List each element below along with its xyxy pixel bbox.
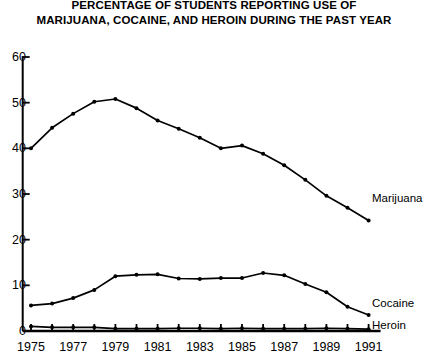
series-point-cocaine — [177, 276, 181, 280]
series-point-cocaine — [156, 272, 160, 276]
series-point-cocaine — [240, 276, 244, 280]
x-tick-label-1985: 1985 — [222, 341, 262, 354]
series-point-marijuana — [156, 118, 160, 122]
series-label-heroin: Heroin — [372, 320, 406, 332]
x-tick-label-1979: 1979 — [95, 341, 135, 354]
series-point-marijuana — [219, 146, 223, 150]
series-point-heroin — [135, 327, 139, 331]
series-point-marijuana — [198, 136, 202, 140]
series-point-cocaine — [92, 288, 96, 292]
series-point-marijuana — [324, 194, 328, 198]
series-point-heroin — [324, 326, 328, 330]
series-point-heroin — [177, 326, 181, 330]
x-tick-label-1975: 1975 — [11, 341, 51, 354]
chart-canvas — [0, 0, 428, 355]
series-point-cocaine — [29, 303, 33, 307]
x-tick-label-1983: 1983 — [180, 341, 220, 354]
series-point-heroin — [303, 327, 307, 331]
x-tick-label-1987: 1987 — [264, 341, 304, 354]
series-point-cocaine — [324, 290, 328, 294]
series-point-cocaine — [71, 296, 75, 300]
series-point-marijuana — [135, 106, 139, 110]
series-point-heroin — [156, 327, 160, 331]
series-point-marijuana — [92, 100, 96, 104]
series-point-heroin — [346, 327, 350, 331]
series-line-marijuana — [31, 99, 369, 220]
series-point-cocaine — [261, 271, 265, 275]
y-tick-label-10: 10 — [0, 279, 26, 292]
series-point-cocaine — [135, 273, 139, 277]
series-point-heroin — [113, 327, 117, 331]
series-point-marijuana — [303, 178, 307, 182]
series-point-heroin — [240, 326, 244, 330]
x-tick-label-1977: 1977 — [53, 341, 93, 354]
series-point-marijuana — [367, 218, 371, 222]
series-point-cocaine — [282, 273, 286, 277]
series-point-heroin — [367, 327, 371, 331]
series-point-cocaine — [113, 274, 117, 278]
series-label-cocaine: Cocaine — [372, 298, 414, 310]
series-point-heroin — [71, 325, 75, 329]
series-point-marijuana — [29, 146, 33, 150]
series-point-heroin — [92, 325, 96, 329]
series-point-heroin — [261, 327, 265, 331]
series-point-marijuana — [71, 112, 75, 116]
plot-area — [0, 0, 428, 355]
y-tick-label-40: 40 — [0, 142, 26, 155]
series-point-cocaine — [303, 282, 307, 286]
x-tick-label-1989: 1989 — [306, 341, 346, 354]
series-point-heroin — [198, 326, 202, 330]
series-point-cocaine — [346, 305, 350, 309]
series-point-marijuana — [240, 144, 244, 148]
series-point-marijuana — [177, 127, 181, 131]
series-point-heroin — [282, 327, 286, 331]
series-point-heroin — [50, 325, 54, 329]
series-point-marijuana — [50, 126, 54, 130]
y-tick-label-30: 30 — [0, 188, 26, 201]
x-tick-label-1981: 1981 — [138, 341, 178, 354]
series-point-cocaine — [367, 313, 371, 317]
y-tick-label-60: 60 — [0, 51, 26, 64]
series-point-heroin — [29, 324, 33, 328]
series-point-heroin — [219, 327, 223, 331]
series-point-marijuana — [113, 97, 117, 101]
series-point-marijuana — [346, 206, 350, 210]
y-tick-label-20: 20 — [0, 234, 26, 247]
series-point-cocaine — [219, 276, 223, 280]
series-point-cocaine — [198, 277, 202, 281]
series-label-marijuana: Marijuana — [372, 193, 423, 205]
series-point-marijuana — [261, 152, 265, 156]
y-tick-label-0: 0 — [0, 325, 26, 338]
series-point-cocaine — [50, 302, 54, 306]
chart-figure: PERCENTAGE OF STUDENTS REPORTING USE OF … — [0, 0, 428, 355]
y-tick-label-50: 50 — [0, 97, 26, 110]
x-tick-label-1991: 1991 — [349, 341, 389, 354]
series-point-marijuana — [282, 163, 286, 167]
